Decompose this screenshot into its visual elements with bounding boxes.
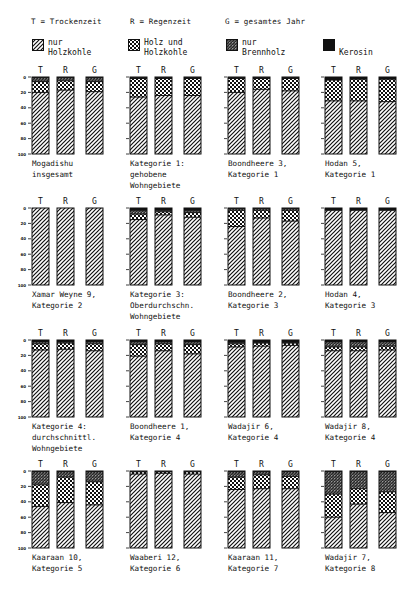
bar-letter: T <box>38 460 43 469</box>
bar-segment-bh <box>228 472 245 477</box>
key-trockenzeit: T = Trockenzeit <box>31 17 102 26</box>
legend-label-bh: nur Brennholz <box>242 38 285 58</box>
bar-segment-hk <box>253 89 270 154</box>
bar-letter: T <box>136 66 141 75</box>
bar-letter: T <box>38 329 43 338</box>
bar-letter: T <box>136 197 141 206</box>
bar-segment-hk <box>282 91 299 154</box>
bar-segment-bh <box>32 472 49 485</box>
bar-segment-hk <box>379 350 396 417</box>
panel-label: Mogadishu insgesamt <box>32 158 73 180</box>
bar-letter: T <box>234 329 239 338</box>
panel-label: Xamar Weyne 9, Kategorie 2 <box>32 289 96 311</box>
bar-letter: T <box>331 329 336 338</box>
bar-segment-hhk <box>253 210 270 218</box>
bar-segment-hk <box>325 351 342 417</box>
y-tick-label: 100 <box>18 152 27 157</box>
bar-letter: R <box>63 329 68 338</box>
bar-segment-hk <box>155 473 172 548</box>
bar-letter: G <box>190 329 195 338</box>
bar-segment-hhk <box>86 82 103 92</box>
bar-segment-hk <box>253 489 270 548</box>
y-tick-label: 100 <box>18 415 27 420</box>
bar-segment-hk <box>32 208 49 285</box>
y-tick-label: 80 <box>20 399 26 404</box>
legend-swatch-hk-icon <box>32 39 44 51</box>
y-tick-label: 100 <box>18 283 27 288</box>
bar-segment-hhk <box>228 477 245 489</box>
bar-segment-hk <box>379 210 396 285</box>
panel-label: Hodan 5, Kategorie 1 <box>325 158 375 180</box>
bar-letter: G <box>385 197 390 206</box>
bar-segment-hk <box>57 503 74 548</box>
bar-segment-hhk <box>184 79 201 96</box>
bar-letter: G <box>190 197 195 206</box>
bar-letter: T <box>234 460 239 469</box>
bar-letter: G <box>190 66 195 75</box>
bar-segment-hk <box>155 215 172 285</box>
bar-segment-hk <box>350 504 367 548</box>
bar-segment-hhk <box>57 81 74 90</box>
y-tick-label: 20 <box>20 353 26 358</box>
bar-segment-hk <box>184 95 201 154</box>
legend-swatch-bh-icon <box>226 39 238 51</box>
stacked-bar-chart: TRG <box>204 329 304 420</box>
bar-letter: T <box>331 66 336 75</box>
bar-segment-hk <box>325 101 342 154</box>
y-tick-label: 60 <box>20 515 26 520</box>
bar-segment-bh <box>86 78 103 82</box>
stacked-bar-chart: TRG <box>106 329 206 420</box>
bar-segment-hk <box>253 346 270 417</box>
bar-segment-hhk <box>350 347 367 351</box>
bar-letter: R <box>63 66 68 75</box>
panel-label: Kaaraan 11, Kategorie 7 <box>228 552 278 574</box>
bar-segment-hk <box>130 474 147 548</box>
bar-segment-hk <box>325 517 342 548</box>
y-tick-label: 80 <box>20 267 26 272</box>
bar-letter: T <box>331 460 336 469</box>
y-tick-label: 100 <box>18 546 27 551</box>
bar-letter: G <box>385 329 390 338</box>
y-tick-label: 60 <box>20 121 26 126</box>
bar-segment-hhk <box>282 79 299 91</box>
bar-segment-hk <box>379 513 396 548</box>
legend-swatch-ker-icon <box>323 39 335 51</box>
y-tick-label: 40 <box>20 105 26 110</box>
bar-segment-hk <box>184 474 201 548</box>
bar-segment-hhk <box>350 489 367 504</box>
bar-segment-hhk <box>379 79 396 101</box>
bar-segment-hhk <box>282 476 299 488</box>
bar-segment-hk <box>86 505 103 548</box>
legend-label-hk: nur Holzkohle <box>48 38 91 58</box>
bar-segment-bh <box>350 342 367 347</box>
legend-label-ker: Kerosin <box>339 38 373 58</box>
panel-label: Kategorie 1: gehobene Wohngebiete <box>130 158 185 191</box>
bar-letter: R <box>259 329 264 338</box>
stacked-bar-chart: TRG020406080100 <box>8 460 108 551</box>
y-tick-label: 0 <box>23 206 26 211</box>
bar-letter: T <box>38 66 43 75</box>
stacked-bar-chart: TRG <box>301 460 401 551</box>
panel-label: Boondheere 1, Kategorie 4 <box>130 421 189 443</box>
bar-letter: G <box>288 66 293 75</box>
stacked-bar-chart: TRG020406080100 <box>8 329 108 420</box>
bar-segment-hk <box>86 92 103 154</box>
bar-letter: R <box>161 197 166 206</box>
key-gesamtes-jahr: G = gesamtes Jahr <box>225 17 305 26</box>
bar-letter: G <box>385 66 390 75</box>
y-tick-label: 60 <box>20 252 26 257</box>
bar-segment-hhk <box>57 343 74 349</box>
bar-segment-bh <box>379 472 396 492</box>
bar-segment-hk <box>350 101 367 154</box>
bar-segment-hhk <box>325 347 342 351</box>
bar-letter: G <box>288 460 293 469</box>
panel-label: Wadajir 6, Kategorie 4 <box>228 421 278 443</box>
panel-label: Waaberi 12, Kategorie 6 <box>130 552 180 574</box>
bar-letter: R <box>259 197 264 206</box>
stacked-bar-chart: TRG <box>204 197 304 288</box>
bar-segment-hhk <box>130 345 147 357</box>
y-tick-label: 20 <box>20 90 26 95</box>
bar-segment-hk <box>86 351 103 417</box>
bar-segment-hhk <box>228 79 245 93</box>
bar-letter: R <box>259 460 264 469</box>
